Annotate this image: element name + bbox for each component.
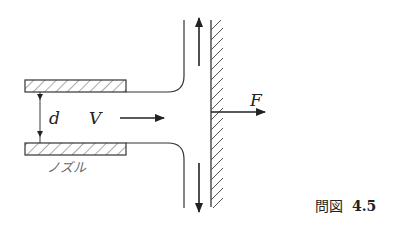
velocity-label: V <box>89 108 103 128</box>
nozzle-top-wall <box>25 80 126 92</box>
jet-boundary-lower <box>126 143 184 208</box>
jet-impingement-diagram: d V F ノズル 問図 4.5 <box>0 0 413 226</box>
nozzle-bottom-wall <box>25 143 126 155</box>
caption-number: 4.5 <box>352 198 376 214</box>
flat-plate-wall <box>211 18 223 210</box>
jet-boundary-upper <box>126 20 184 92</box>
nozzle-label: ノズル <box>47 160 87 175</box>
caption-prefix: 問図 <box>315 198 343 214</box>
diameter-label: d <box>49 108 60 128</box>
figure-caption: 問図 4.5 <box>315 197 376 214</box>
force-label: F <box>249 90 263 110</box>
